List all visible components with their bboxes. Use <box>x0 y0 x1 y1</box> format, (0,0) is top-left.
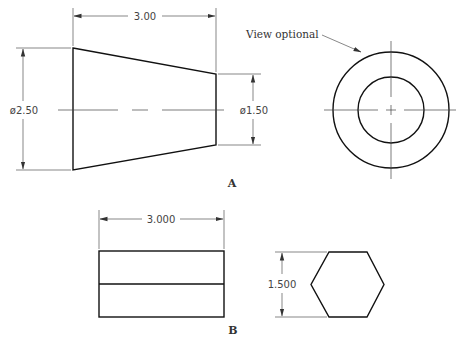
figure-label-a: A <box>227 177 237 190</box>
length-dimension-text: 3.000 <box>147 214 176 225</box>
figure-b-front-view: 3.000 B <box>99 210 238 337</box>
figure-a-end-view: View optional <box>245 28 456 179</box>
view-optional-note: View optional <box>245 28 319 40</box>
tapered-cone-outline <box>73 48 216 170</box>
figure-label-b: B <box>228 324 237 337</box>
length-dimension-text: 3.00 <box>134 11 156 22</box>
figure-b-end-view: 1.500 <box>268 252 384 317</box>
leader-arrow <box>322 35 361 52</box>
large-diameter-text: ø2.50 <box>10 105 38 116</box>
small-diameter-text: ø1.50 <box>240 105 268 116</box>
height-dimension-text: 1.500 <box>268 279 297 290</box>
hexagon-outline <box>311 252 384 317</box>
figure-a-side-view: 3.00 ø2.50 ø1.50 A <box>10 8 268 190</box>
technical-drawing: 3.00 ø2.50 ø1.50 A View optional <box>0 0 460 345</box>
